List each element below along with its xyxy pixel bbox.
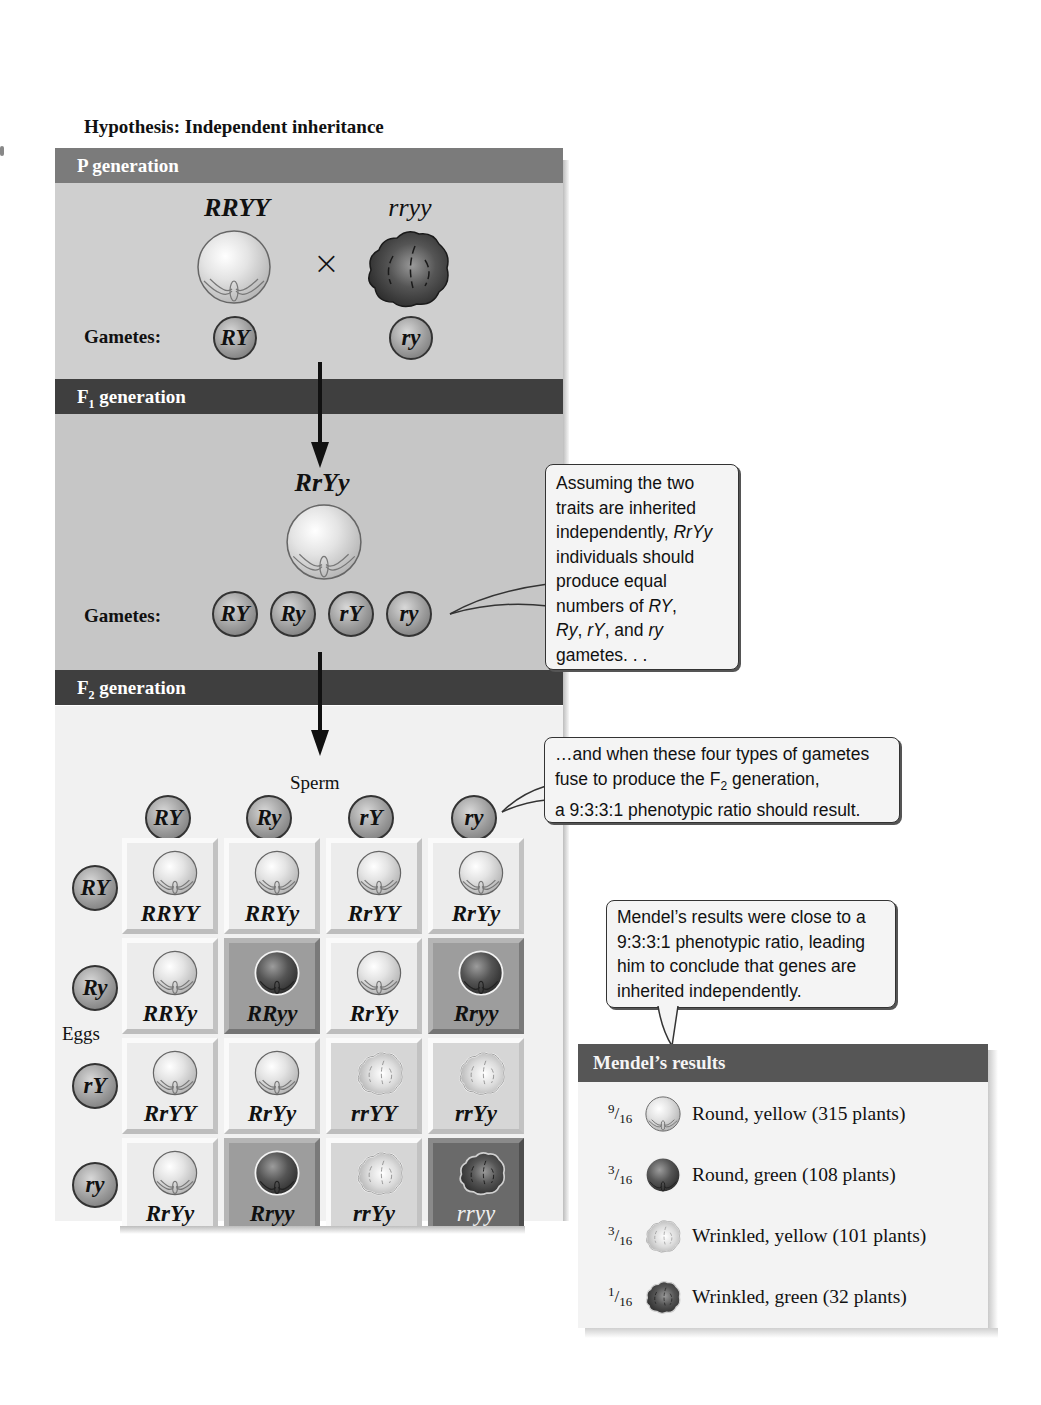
f1-genotype: RrYy <box>252 468 392 498</box>
punnett-cell: RRYy <box>122 938 218 1034</box>
f2-generation-header: F2 generation <box>55 670 563 705</box>
round-yellow-seed-icon <box>253 1049 301 1097</box>
punnett-genotype: rrYY <box>331 1101 417 1127</box>
sperm-gamete-3: rY <box>348 795 394 841</box>
round-yellow-seed-icon <box>457 849 505 897</box>
fraction-numerator: 3 <box>608 1223 615 1238</box>
punnett-genotype: Rryy <box>433 1001 519 1027</box>
callout-f1-pointer <box>448 580 558 630</box>
p-gamete-ry-dominant: RY <box>213 316 257 360</box>
f1-gamete-3: rY <box>328 591 374 637</box>
callout-f1-line: gametes. . . <box>556 643 728 668</box>
round-green-seed-icon <box>253 1149 301 1197</box>
punnett-genotype: RrYy <box>229 1101 315 1127</box>
results-fraction: 3/16 <box>608 1162 640 1188</box>
callout-f2: …and when these four types of gametes fu… <box>544 737 900 823</box>
round-green-seed-icon <box>253 949 301 997</box>
callout-results-line: 9:3:3:1 phenotypic ratio, leading <box>617 930 885 955</box>
punnett-cell: rrYy <box>326 1138 422 1234</box>
wrinkled-green-seed-icon <box>457 1149 505 1197</box>
punnett-genotype: RrYy <box>127 1201 213 1227</box>
callout-text: fuse to produce the F <box>555 769 720 789</box>
round-yellow-seed-icon <box>151 1049 199 1097</box>
callout-gamete: Ry <box>556 620 577 640</box>
wrinkled-green-seed-icon <box>644 1278 682 1316</box>
callout-gamete: RY <box>648 596 672 616</box>
f2-header-prefix: F <box>77 677 89 698</box>
punnett-genotype: RrYY <box>127 1101 213 1127</box>
punnett-cell: rryy <box>428 1138 524 1234</box>
wrinkled-yellow-seed-icon <box>457 1049 505 1097</box>
punnett-shadow <box>120 1226 525 1234</box>
punnett-genotype: Rryy <box>229 1201 315 1227</box>
punnett-cell: RrYY <box>122 1038 218 1134</box>
callout-f2-line: …and when these four types of gametes <box>555 742 889 767</box>
f1-gamete-4: ry <box>386 591 432 637</box>
arrow-f1-to-f2-line <box>318 652 322 732</box>
f1-gametes-label: Gametes: <box>84 605 161 627</box>
round-yellow-seed-icon <box>151 949 199 997</box>
results-row: 1/16Wrinkled, green (32 plants) <box>608 1277 988 1317</box>
punnett-genotype: rryy <box>433 1201 519 1227</box>
fraction-numerator: 1 <box>608 1284 615 1299</box>
punnett-genotype: RrYy <box>331 1001 417 1027</box>
results-row: 3/16Round, green (108 plants) <box>608 1155 988 1195</box>
fraction-numerator: 9 <box>608 1101 615 1116</box>
punnett-genotype: RRYy <box>127 1001 213 1027</box>
egg-gamete-3: rY <box>72 1063 118 1109</box>
callout-f2-line: a 9:3:3:1 phenotypic ratio should result… <box>555 798 889 823</box>
punnett-cell: RrYy <box>122 1138 218 1234</box>
punnett-cell: RrYy <box>224 1038 320 1134</box>
callout-f2-line: fuse to produce the F2 generation, <box>555 767 889 798</box>
callout-f1-line: numbers of RY, <box>556 594 728 619</box>
cross-symbol: × <box>313 244 340 282</box>
f1-gamete-1: RY <box>212 591 258 637</box>
results-shadow <box>585 1328 998 1338</box>
punnett-square: RRYYRRYyRrYYRrYyRRYyRRyyRrYyRryyRrYYRrYy… <box>122 838 528 1238</box>
egg-gamete-4: ry <box>72 1162 118 1208</box>
arrow-p-to-f1-head-icon <box>311 442 329 468</box>
results-label: Round, green (108 plants) <box>692 1164 896 1186</box>
punnett-cell: RRYy <box>224 838 320 934</box>
punnett-cell: RRYY <box>122 838 218 934</box>
callout-f1-line: Assuming the two <box>556 471 728 496</box>
round-yellow-seed-icon <box>194 227 274 307</box>
round-yellow-seed-icon <box>253 849 301 897</box>
results-row: 3/16Wrinkled, yellow (101 plants) <box>608 1216 988 1256</box>
punnett-cell: rrYY <box>326 1038 422 1134</box>
punnett-genotype: rrYy <box>331 1201 417 1227</box>
f1-header-suffix: generation <box>95 386 186 407</box>
callout-text: independently, <box>556 522 673 542</box>
results-fraction: 9/16 <box>608 1101 640 1127</box>
figure-title: Hypothesis: Independent inheritance <box>84 116 384 138</box>
fraction-denominator: 16 <box>619 1111 632 1126</box>
round-yellow-seed-icon <box>644 1095 682 1133</box>
callout-f1-line: traits are inherited <box>556 496 728 521</box>
callout-results-pointer <box>650 1006 690 1048</box>
results-fraction: 1/16 <box>608 1284 640 1310</box>
callout-results-line: Mendel’s results were close to a <box>617 905 885 930</box>
round-yellow-seed-icon <box>355 849 403 897</box>
punnett-cell: rrYy <box>428 1038 524 1134</box>
wrinkled-yellow-seed-icon <box>355 1049 403 1097</box>
callout-f2-pointer <box>500 780 550 820</box>
egg-gamete-2: Ry <box>72 965 118 1011</box>
margin-mark <box>0 146 4 156</box>
f1-round-yellow-seed-icon <box>283 501 365 583</box>
wrinkled-yellow-seed-icon <box>355 1149 403 1197</box>
arrow-p-to-f1-line <box>318 362 322 444</box>
callout-f1-line: individuals should <box>556 545 728 570</box>
callout-f1-line: independently, RrYy <box>556 520 728 545</box>
callout-text: , and <box>605 620 649 640</box>
f1-header-prefix: F <box>77 386 89 407</box>
callout-gamete: rY <box>587 620 605 640</box>
callout-text: , <box>672 596 677 616</box>
callout-text: generation, <box>727 769 819 789</box>
p-generation-panel <box>55 183 563 379</box>
callout-results-line: him to conclude that genes are <box>617 954 885 979</box>
sperm-gamete-2: Ry <box>246 795 292 841</box>
punnett-genotype: RRYY <box>127 901 213 927</box>
parent2-genotype: rryy <box>340 193 480 223</box>
punnett-cell: Rryy <box>428 938 524 1034</box>
punnett-genotype: RrYY <box>331 901 417 927</box>
